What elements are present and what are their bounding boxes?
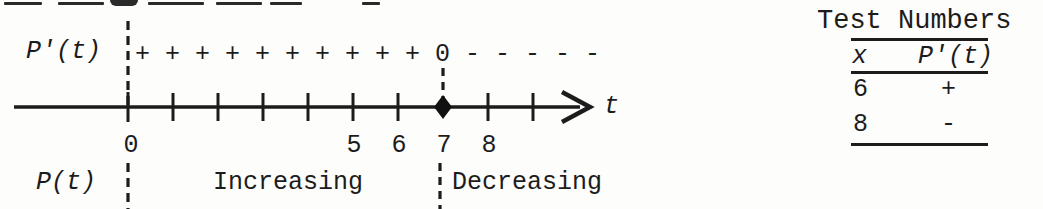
tick-label-8: 8	[481, 133, 496, 159]
table-cell-x: 6	[853, 77, 868, 103]
table-rule-header	[851, 71, 988, 74]
sign-chart-figure: P'(t) + + + + + + + + + + 0 - - - - - t …	[0, 0, 1043, 209]
tick-label-0: 0	[123, 133, 138, 159]
axis-variable-label: t	[604, 94, 619, 120]
table-title: Test Numbers	[817, 8, 1011, 35]
table-rule-bottom	[851, 143, 988, 146]
table-rule-top	[851, 38, 988, 41]
critical-point-dot	[434, 95, 452, 119]
table-header-derivative: P'(t)	[918, 44, 993, 70]
derivative-label: P'(t)	[26, 39, 101, 65]
table-cell-sign: -	[941, 112, 956, 138]
table-cell-sign: +	[941, 77, 956, 103]
tick-label-5: 5	[346, 133, 361, 159]
table-header-x: x	[852, 44, 867, 70]
increasing-label: Increasing	[213, 170, 363, 196]
function-label: P(t)	[36, 170, 96, 196]
decreasing-label: Decreasing	[452, 170, 602, 196]
table-cell-x: 8	[853, 112, 868, 138]
tick-label-7: 7	[436, 133, 451, 159]
sign-sequence: + + + + + + + + + + 0 - - - - -	[135, 42, 600, 68]
tick-label-6: 6	[391, 133, 406, 159]
